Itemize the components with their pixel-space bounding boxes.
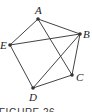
vertex-c	[70, 73, 74, 77]
edge-e-d	[10, 45, 33, 88]
edge-b-c	[72, 34, 80, 75]
vertex-d	[31, 86, 35, 90]
vertex-label-e: E	[0, 39, 7, 51]
graph-vertices	[8, 17, 82, 90]
edge-a-b	[38, 19, 80, 34]
vertex-label-c: C	[76, 71, 84, 83]
graph-edges	[10, 19, 80, 88]
vertex-e	[8, 43, 12, 47]
graph-diagram: ABCDE FIGURE 26	[0, 0, 92, 112]
vertex-b	[78, 32, 82, 36]
vertex-label-a: A	[34, 4, 42, 16]
vertex-a	[36, 17, 40, 21]
figure-caption: FIGURE 26	[0, 107, 55, 112]
vertex-label-d: D	[28, 91, 37, 103]
edge-a-c	[38, 19, 72, 75]
vertex-label-b: B	[83, 28, 90, 40]
